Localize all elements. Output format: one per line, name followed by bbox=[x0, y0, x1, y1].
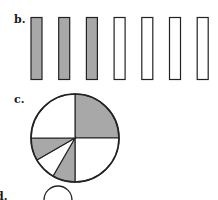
shaded-bar bbox=[86, 18, 97, 80]
unshaded-bar bbox=[170, 18, 181, 80]
bar-model bbox=[31, 18, 208, 80]
partial-circle-d bbox=[44, 186, 72, 200]
unshaded-bar bbox=[142, 18, 153, 80]
unshaded-bar bbox=[197, 18, 208, 80]
fraction-figures bbox=[0, 0, 218, 200]
shaded-bar bbox=[59, 18, 70, 80]
shaded-bar bbox=[31, 18, 42, 80]
unshaded-bar bbox=[114, 18, 125, 80]
circle-model bbox=[31, 94, 119, 182]
